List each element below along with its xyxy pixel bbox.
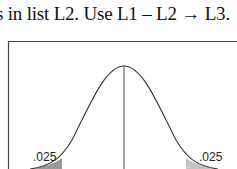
left-tail-label: .025 [33,150,56,164]
normal-curve-figure [0,0,237,169]
right-tail-label: .025 [199,150,222,164]
